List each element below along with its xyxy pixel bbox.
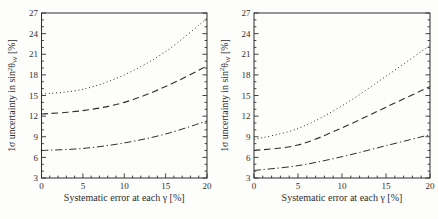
y-tick-label: 21	[242, 49, 251, 59]
left-plot: 36912151821242705101520Systematic error …	[6, 8, 212, 202]
right-plot: 36912151821242705101520Systematic error …	[218, 8, 435, 202]
y-tick-label: 15	[242, 91, 252, 101]
y-tick-label: 21	[29, 49, 38, 59]
curve-dashed	[254, 87, 430, 151]
y-tick-label: 9	[246, 132, 251, 142]
y-tick-label: 27	[29, 8, 39, 18]
x-tick-label: 15	[161, 181, 171, 191]
plot-frame	[254, 13, 430, 178]
x-tick-label: 0	[252, 181, 257, 191]
y-tick-label: 15	[29, 91, 39, 101]
y-tick-label: 9	[34, 132, 39, 142]
x-tick-label: 5	[81, 181, 86, 191]
x-tick-label: 0	[39, 181, 44, 191]
curve-dotted	[254, 45, 430, 139]
y-tick-label: 18	[29, 70, 39, 80]
y-tick-label: 24	[242, 29, 252, 39]
y-tick-label: 18	[242, 70, 252, 80]
y-tick-label: 12	[242, 111, 251, 121]
y-tick-label: 6	[246, 153, 251, 163]
y-tick-label: 24	[29, 29, 39, 39]
curve-dotted	[42, 19, 208, 95]
plot-frame	[42, 13, 208, 178]
x-axis-label: Systematic error at each γ [%]	[282, 192, 403, 203]
y-axis-label: 1σ uncertainty in sin2θW [%]	[6, 39, 20, 152]
x-tick-label: 20	[203, 181, 213, 191]
y-tick-label: 3	[34, 173, 39, 183]
curve-dash-dot	[42, 121, 208, 151]
figure: 36912151821242705101520Systematic error …	[0, 0, 438, 219]
y-tick-label: 12	[29, 111, 38, 121]
x-tick-label: 10	[338, 181, 348, 191]
curve-dashed	[42, 66, 208, 114]
x-tick-label: 10	[120, 181, 130, 191]
curve-dash-dot	[254, 135, 430, 171]
x-axis-label: Systematic error at each γ [%]	[64, 192, 185, 203]
x-tick-label: 15	[382, 181, 392, 191]
y-axis-label: 1σ uncertainty in sin2θW [%]	[218, 39, 232, 152]
y-tick-label: 3	[246, 173, 251, 183]
y-tick-label: 27	[242, 8, 252, 18]
y-tick-label: 6	[34, 153, 39, 163]
x-tick-label: 5	[296, 181, 301, 191]
dual-line-chart-figure: 36912151821242705101520Systematic error …	[0, 0, 438, 219]
x-tick-label: 20	[426, 181, 436, 191]
